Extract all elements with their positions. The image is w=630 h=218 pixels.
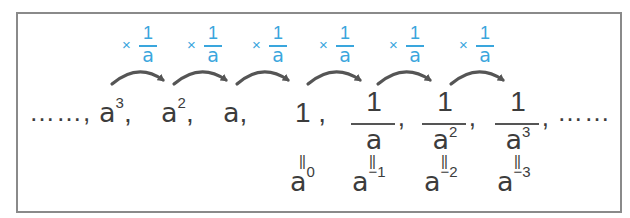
comma: , <box>186 97 194 128</box>
comma: , <box>398 102 405 133</box>
denominator-base: a <box>433 124 450 155</box>
term-a-squared: a2, <box>161 97 194 129</box>
arrow-1 <box>112 72 163 84</box>
power-base: a <box>424 166 441 197</box>
denominator-exponent: 2 <box>449 123 457 140</box>
power-exponent: 0 <box>307 163 315 180</box>
trailing-ellipsis: …… <box>557 97 611 128</box>
power-a-neg-one: a−1 <box>352 166 386 197</box>
term-exponent: 3 <box>116 94 124 111</box>
fraction-numerator: 1 <box>349 86 399 118</box>
term-one: 1 , <box>295 97 326 129</box>
fraction-numerator: 1 <box>493 86 543 118</box>
arrow-5 <box>378 72 430 84</box>
term-base: 1 <box>295 97 311 128</box>
power-base: a <box>497 166 514 197</box>
power-a-neg-two: a−2 <box>424 166 458 197</box>
comma: , <box>240 97 248 128</box>
term-base: a <box>223 97 240 128</box>
arrow-4 <box>308 72 360 84</box>
fraction-numerator: 1 <box>420 86 470 118</box>
arrow-3 <box>237 72 288 84</box>
term-a-cubed: a3, <box>99 97 132 129</box>
term-a: a, <box>223 97 247 129</box>
power-a-zero: a0 <box>290 166 315 197</box>
term-base: a <box>99 97 116 128</box>
comma: , <box>469 102 476 133</box>
power-exponent: −3 <box>514 163 531 180</box>
power-base: a <box>290 166 307 197</box>
denominator-base: a <box>506 124 523 155</box>
comma: , <box>311 97 327 128</box>
fraction-denominator: a2 <box>420 124 470 155</box>
leading-ellipsis: ……, <box>29 97 91 128</box>
comma: , <box>124 97 132 128</box>
fraction-denominator: a3 <box>493 124 543 155</box>
denominator-base: a <box>366 124 383 155</box>
denominator-exponent: 3 <box>522 123 530 140</box>
power-exponent: −2 <box>441 163 458 180</box>
fraction-denominator: a <box>349 124 399 155</box>
comma: , <box>542 102 549 133</box>
term-exponent: 2 <box>178 94 186 111</box>
term-base: a <box>161 97 178 128</box>
power-exponent: −1 <box>369 163 386 180</box>
power-base: a <box>352 166 369 197</box>
arrow-2 <box>174 72 226 84</box>
arrow-6 <box>451 72 503 84</box>
power-a-neg-three: a−3 <box>497 166 531 197</box>
